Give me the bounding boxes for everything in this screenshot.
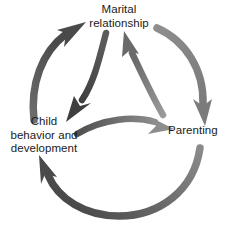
node-label-marital-relationship: Marital relationship [63, 3, 175, 30]
arrow-inner-child-to-parenting [77, 117, 174, 134]
cycle-diagram-canvas [0, 0, 238, 228]
node-label-parenting: Parenting [168, 124, 238, 138]
arrow-outer-parenting-to-child [39, 148, 200, 216]
arrow-inner-parenting-to-marital [122, 31, 163, 115]
cycle-diagram: Marital relationship Parenting Child beh… [0, 0, 238, 228]
node-label-child-behavior-and-development: Child behavior and development [1, 115, 87, 156]
arrow-outer-marital-to-parenting [157, 28, 212, 126]
arrow-inner-marital-to-child [66, 33, 106, 122]
